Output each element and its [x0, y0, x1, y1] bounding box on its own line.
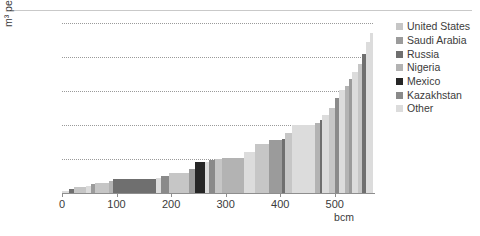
legend: United StatesSaudi ArabiaRussiaNigeriaMe…	[396, 20, 480, 116]
x-tick-label: 0	[42, 198, 82, 210]
x-tick	[117, 193, 118, 197]
legend-swatch-icon	[396, 78, 403, 85]
legend-swatch-icon	[396, 37, 403, 44]
legend-swatch-icon	[396, 105, 403, 112]
x-tick-label: 100	[97, 198, 137, 210]
legend-label: Russia	[407, 49, 439, 60]
plot-area	[62, 23, 373, 193]
legend-swatch-icon	[396, 64, 403, 71]
x-tick-label: 500	[315, 198, 355, 210]
x-tick	[171, 193, 172, 197]
x-tick	[62, 193, 63, 197]
legend-label: Other	[407, 103, 433, 114]
bar	[244, 152, 255, 193]
legend-item[interactable]: Mexico	[396, 75, 480, 89]
gridline	[62, 23, 373, 24]
bar	[269, 140, 282, 193]
legend-label: Kazakhstan	[407, 90, 462, 101]
bar	[285, 133, 293, 193]
legend-label: Saudi Arabia	[407, 35, 467, 46]
x-tick	[280, 193, 281, 197]
legend-item[interactable]: Saudi Arabia	[396, 34, 480, 48]
x-axis-line	[62, 193, 375, 194]
x-tick-label: 200	[151, 198, 191, 210]
bar	[95, 183, 109, 193]
supply-curve-chart: m³ per barrel 25020015010050 01002003004…	[0, 0, 480, 236]
bar	[222, 158, 244, 193]
legend-item[interactable]: Kazakhstan	[396, 88, 480, 102]
legend-item[interactable]: Other	[396, 102, 480, 116]
legend-swatch-icon	[396, 23, 403, 30]
legend-item[interactable]: Nigeria	[396, 61, 480, 75]
legend-label: United States	[407, 21, 470, 32]
x-tick	[335, 193, 336, 197]
legend-swatch-icon	[396, 51, 403, 58]
bar	[255, 144, 269, 193]
bar	[195, 162, 205, 193]
bar	[370, 33, 373, 193]
bar	[322, 115, 330, 193]
legend-item[interactable]: United States	[396, 20, 480, 34]
legend-swatch-icon	[396, 92, 403, 99]
gridline	[62, 91, 373, 92]
x-tick-label: 400	[260, 198, 300, 210]
legend-label: Nigeria	[407, 62, 440, 73]
x-tick-label: 300	[206, 198, 246, 210]
gridline	[62, 57, 373, 58]
x-tick	[226, 193, 227, 197]
bar	[292, 125, 315, 193]
x-axis-title: bcm	[324, 211, 364, 223]
bar	[215, 159, 223, 193]
bar	[113, 179, 156, 193]
bar	[161, 176, 169, 193]
bar	[169, 173, 189, 193]
legend-item[interactable]: Russia	[396, 47, 480, 61]
legend-label: Mexico	[407, 76, 440, 87]
